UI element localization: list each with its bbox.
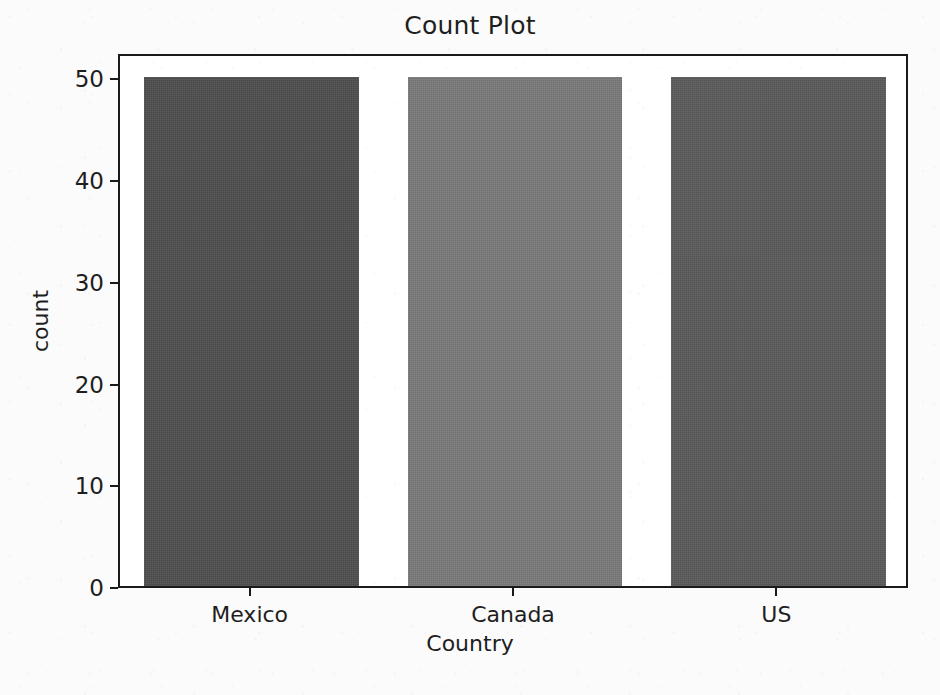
y-tick-label: 10 <box>44 473 104 499</box>
y-tick-mark <box>110 485 118 487</box>
y-tick-label: 40 <box>44 168 104 194</box>
chart-title: Count Plot <box>0 11 940 40</box>
y-tick-mark <box>110 78 118 80</box>
x-tick-label: US <box>656 602 896 627</box>
bar-texture <box>144 77 359 586</box>
bar-us <box>671 77 886 586</box>
bar-texture <box>671 77 886 586</box>
y-tick-label: 30 <box>44 270 104 296</box>
y-axis-label: count <box>28 290 53 352</box>
bar-canada <box>408 77 623 586</box>
y-tick-mark <box>110 282 118 284</box>
x-tick-label: Canada <box>393 602 633 627</box>
y-tick-mark <box>110 180 118 182</box>
y-tick-label: 0 <box>44 575 104 601</box>
y-tick-label: 20 <box>44 372 104 398</box>
x-tick-mark <box>512 588 514 596</box>
x-axis-label: Country <box>0 631 940 656</box>
y-tick-mark <box>110 587 118 589</box>
y-tick-label: 50 <box>44 66 104 92</box>
bars-layer <box>120 56 906 586</box>
bar-mexico <box>144 77 359 586</box>
x-tick-mark <box>775 588 777 596</box>
x-tick-mark <box>249 588 251 596</box>
y-tick-mark <box>110 384 118 386</box>
bar-texture <box>408 77 623 586</box>
plot-area <box>118 54 908 588</box>
count-plot-figure: Count Plot 01020304050 MexicoCanadaUS co… <box>0 0 940 695</box>
x-tick-label: Mexico <box>130 602 370 627</box>
